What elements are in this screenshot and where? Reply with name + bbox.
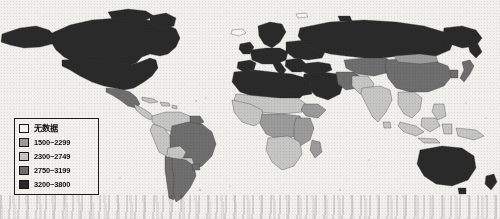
legend-label-4: 3200~3800 bbox=[34, 180, 70, 189]
legend-swatch-0 bbox=[19, 124, 29, 133]
legend-label-0: 无数据 bbox=[34, 124, 59, 133]
legend-label-2: 2300~2749 bbox=[34, 152, 70, 161]
legend-swatch-3 bbox=[19, 166, 29, 175]
legend-swatch-2 bbox=[19, 152, 29, 161]
legend-swatch-4 bbox=[19, 180, 29, 189]
legend-item-2: 2300~2749 bbox=[19, 150, 95, 163]
legend-item-1: 1500~2299 bbox=[19, 136, 95, 149]
legend-item-3: 2750~3199 bbox=[19, 164, 95, 177]
region-svalbard bbox=[296, 13, 308, 18]
map-legend: 无数据 1500~2299 2300~2749 2750~3199 3200~3… bbox=[14, 118, 99, 195]
region-korea bbox=[450, 70, 458, 78]
choropleth-figure: 无数据 1500~2299 2300~2749 2750~3199 3200~3… bbox=[0, 0, 500, 219]
region-uruguay bbox=[192, 164, 200, 170]
legend-item-4: 3200~3800 bbox=[19, 178, 95, 191]
legend-item-0: 无数据 bbox=[19, 122, 95, 135]
legend-label-3: 2750~3199 bbox=[34, 166, 70, 175]
region-france-germany bbox=[250, 48, 288, 64]
region-novaya-zemlya bbox=[338, 16, 352, 21]
region-tasmania bbox=[458, 188, 466, 194]
legend-label-1: 1500~2299 bbox=[34, 138, 70, 147]
legend-swatch-1 bbox=[19, 138, 29, 147]
region-sri-lanka bbox=[383, 122, 391, 128]
